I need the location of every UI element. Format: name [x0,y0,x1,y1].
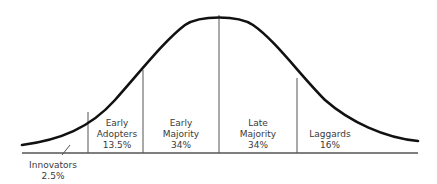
innovators-percent: 2.5% [29,171,77,182]
label-innovators: Innovators 2.5% [29,160,77,182]
laggards-percent: 16% [309,140,350,151]
early-adopters-line1: Early [97,118,137,129]
adoption-curve-graphic [0,0,437,184]
late-majority-line2: Majority [240,129,276,140]
early-adopters-percent: 13.5% [97,140,137,151]
label-early-adopters: Early Adopters 13.5% [97,118,137,151]
early-adopters-line2: Adopters [97,129,137,140]
laggards-name: Laggards [309,129,350,140]
bell-curve [22,18,418,146]
early-majority-line2: Majority [163,129,199,140]
late-majority-percent: 34% [240,140,276,151]
innovators-name: Innovators [29,160,77,171]
label-early-majority: Early Majority 34% [163,118,199,151]
label-late-majority: Late Majority 34% [240,118,276,151]
label-laggards: Laggards 16% [309,129,350,151]
early-majority-percent: 34% [163,140,199,151]
early-majority-line1: Early [163,118,199,129]
late-majority-line1: Late [240,118,276,129]
